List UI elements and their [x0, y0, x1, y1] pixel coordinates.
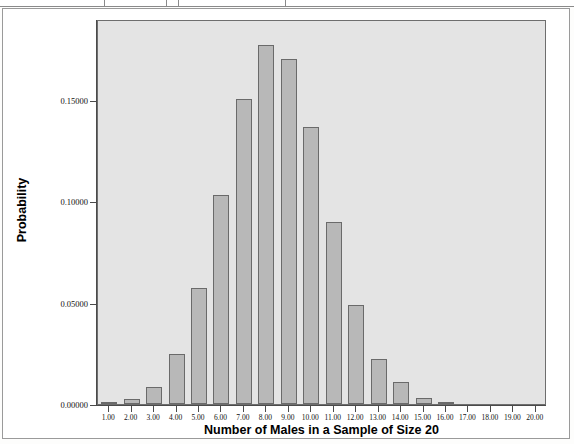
- y-axis-tick: [90, 202, 97, 203]
- x-axis-tick: [400, 406, 401, 412]
- bar: [348, 305, 364, 404]
- y-axis-labels: 0.000000.050000.100000.15000: [0, 8, 88, 444]
- x-axis-tick: [535, 406, 536, 412]
- strip-tick: [104, 0, 105, 7]
- x-axis-tick: [490, 406, 491, 412]
- bar: [236, 99, 252, 404]
- y-axis-tick: [90, 304, 97, 305]
- cut-off-table-strip: [0, 0, 574, 7]
- scanned-page: 0.000000.050000.100000.15000 Probability…: [0, 0, 574, 444]
- x-axis-tick: [265, 406, 266, 412]
- y-axis-line: [96, 20, 97, 405]
- bar: [124, 399, 140, 404]
- bar: [416, 398, 432, 404]
- strip-tick: [166, 0, 167, 7]
- y-axis-tick-label: 0.15000: [0, 96, 88, 106]
- bar: [393, 382, 409, 404]
- probability-histogram: 0.000000.050000.100000.15000 Probability…: [0, 8, 574, 444]
- y-axis-tick-label: 0.05000: [0, 299, 88, 309]
- x-axis-tick: [153, 406, 154, 412]
- x-axis-tick: [310, 406, 311, 412]
- bar: [191, 288, 207, 404]
- bars-container: [98, 21, 545, 404]
- y-axis-tick: [90, 405, 97, 406]
- bar: [371, 359, 387, 404]
- x-axis-tick: [378, 406, 379, 412]
- bar: [438, 402, 454, 404]
- bar: [258, 45, 274, 404]
- x-axis-tick: [423, 406, 424, 412]
- strip-tick: [178, 0, 179, 7]
- x-axis-tick: [108, 406, 109, 412]
- y-axis-tick-label: 0.00000: [0, 400, 88, 410]
- y-axis-tick: [90, 101, 97, 102]
- x-axis-tick-label: 20.00: [520, 413, 550, 422]
- x-axis-tick: [243, 406, 244, 412]
- strip-tick: [285, 0, 286, 7]
- x-axis-tick: [198, 406, 199, 412]
- x-axis-tick: [176, 406, 177, 412]
- bar: [213, 195, 229, 404]
- plot-area: [97, 20, 546, 405]
- x-axis-tick: [355, 406, 356, 412]
- bar: [169, 354, 185, 404]
- x-axis-line: [97, 405, 546, 406]
- bar: [146, 387, 162, 404]
- x-axis-tick: [467, 406, 468, 412]
- y-axis-title: Probability: [15, 140, 29, 280]
- bar: [326, 222, 342, 404]
- x-axis-tick: [131, 406, 132, 412]
- x-axis-tick: [288, 406, 289, 412]
- x-axis-title: Number of Males in a Sample of Size 20: [97, 423, 546, 437]
- x-axis-tick: [220, 406, 221, 412]
- bar: [101, 402, 117, 404]
- x-axis-tick: [445, 406, 446, 412]
- x-axis-tick: [333, 406, 334, 412]
- y-axis-tick-label: 0.10000: [0, 197, 88, 207]
- x-axis-tick: [512, 406, 513, 412]
- bar: [281, 59, 297, 404]
- bar: [303, 127, 319, 404]
